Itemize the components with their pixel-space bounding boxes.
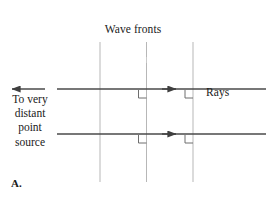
distant-point-source-label: To very distant point source	[2, 92, 58, 149]
wave-fronts-label: Wave fronts	[0, 24, 266, 36]
right-angle-mark-lower-mid	[139, 135, 147, 143]
right-angle-mark-upper-right	[185, 90, 193, 98]
rays-label: Rays	[206, 87, 229, 99]
right-angle-mark-lower-right	[185, 135, 193, 143]
panel-label: A.	[11, 178, 22, 189]
wave-front-ray-diagram: Wave fronts To very distant point source…	[0, 0, 266, 197]
right-angle-mark-upper-mid	[139, 90, 147, 98]
